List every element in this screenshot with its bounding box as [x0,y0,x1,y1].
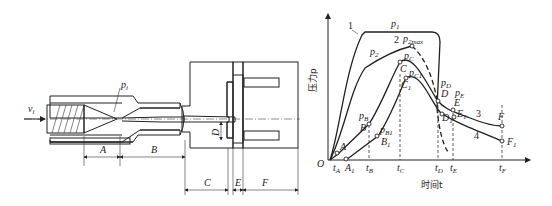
barrel-lower-wall [50,138,130,144]
pc-label: pC [403,50,414,63]
tick-tf: tF [499,162,507,175]
point-c-label: C [400,63,407,74]
dim-d: D [210,128,221,137]
curve-2-number: 2 [394,34,399,45]
tick-te: tE [450,162,458,175]
tick-tc: tC [397,162,405,175]
point-d1-label: D1 [441,112,453,125]
curve-1-number: 1 [348,20,353,31]
tick-td: tD [435,162,443,175]
point-b-label: B [360,122,366,133]
point-a-label: A [339,141,347,152]
curve-3-number: 3 [476,108,481,119]
point-f1-label: F1 [506,136,517,149]
tick-tb: tB [366,162,374,175]
velocity-label: vi [28,103,34,116]
curve-4-number: 4 [474,130,479,141]
dim-e: E [234,177,241,188]
point-f-label: F [497,111,505,122]
dim-f: F [261,177,269,188]
origin-label: O [317,158,324,169]
figure: vi pi D A [0,0,552,206]
tick-ta: tA [333,162,341,175]
moving-mold-plate [243,62,298,148]
point-b1-label: B1 [381,136,391,149]
pc1-label: pC1 [408,67,422,80]
x-axis-label: 时间t [421,179,443,190]
p2-label: p2 [369,46,379,59]
core-pin-upper [244,78,279,87]
fixed-mold-plate [182,62,233,148]
core-pin-lower [244,131,279,140]
dim-b: B [151,144,157,155]
point-e1-label: E1 [456,108,467,121]
dim-a: A [99,144,107,155]
p2max-label: p2max [402,33,424,46]
curve-1-label: p1 [390,18,400,31]
dim-c: C [204,177,211,188]
pressure-time-chart: O 压力p 时间t 1 p1 2 p2max p2 3 [307,14,530,190]
pressure-pi-label: pi [120,79,128,92]
nozzle-mold-section: vi pi D A [24,62,300,195]
tick-a1: A1 [344,162,355,175]
y-axis-label: 压力p [307,68,318,92]
point-c1-label: C1 [401,79,411,92]
